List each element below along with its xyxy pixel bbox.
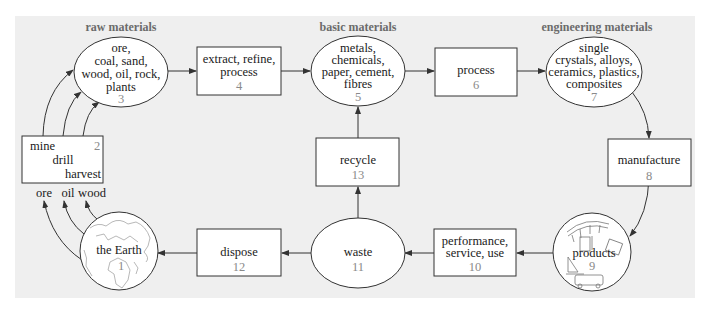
category-raw-materials: raw materials: [86, 20, 157, 34]
node-10-number: 10: [469, 260, 482, 274]
earth-output-wood: wood: [78, 186, 107, 200]
node-4-line-2: process: [220, 65, 258, 79]
node-3-line-1: ore,: [111, 41, 130, 55]
node-5-line-4: fibres: [344, 77, 373, 91]
node-extract-refine-process: extract, refine, process 4: [197, 47, 281, 95]
node-5-number: 5: [355, 90, 361, 104]
node-3-line-2: coal, sand,: [94, 54, 147, 68]
earth-output-oil: oil: [61, 186, 75, 200]
node-basic-materials: metals, chemicals, paper, cement, fibres…: [311, 36, 405, 106]
node-3-number: 3: [118, 92, 124, 106]
node-1-label: the Earth: [96, 243, 142, 257]
node-2-label-mine: mine: [30, 139, 55, 153]
category-engineering-materials: engineering materials: [542, 20, 653, 34]
node-8-number: 8: [646, 169, 652, 183]
node-6-label: process: [457, 63, 495, 77]
node-2-label-harvest: harvest: [65, 167, 102, 181]
node-recycle: recycle 13: [316, 138, 399, 186]
node-the-earth: the Earth 1: [80, 212, 158, 290]
node-3-line-3: wood, oil, rock,: [82, 67, 161, 81]
node-13-label: recycle: [340, 153, 377, 167]
node-12-number: 12: [233, 260, 246, 274]
node-manufacture: manufacture 8: [608, 139, 691, 186]
node-4-number: 4: [236, 79, 243, 93]
node-1-number: 1: [118, 259, 124, 273]
node-7-line-4: composites: [566, 77, 622, 91]
node-products: products 9: [553, 213, 631, 291]
node-performance-service-use: performance, service, use 10: [434, 229, 516, 276]
node-2-number: 2: [94, 139, 100, 153]
node-9-label: products: [572, 246, 615, 260]
node-process: process 6: [435, 48, 517, 96]
node-11-label: waste: [344, 245, 373, 259]
node-dispose: dispose 12: [197, 229, 281, 276]
node-6-number: 6: [473, 78, 479, 92]
materials-cycle-diagram: raw materials basic materials engineerin…: [0, 0, 712, 309]
node-2-label-drill: drill: [53, 153, 74, 167]
node-8-label: manufacture: [618, 153, 681, 167]
node-waste: waste 11: [311, 218, 405, 288]
node-4-line-1: extract, refine,: [203, 52, 276, 66]
node-13-number: 13: [352, 168, 365, 182]
node-raw-materials: ore, coal, sand, wood, oil, rock, plants…: [74, 37, 168, 107]
node-9-number: 9: [589, 259, 595, 273]
node-12-label: dispose: [220, 245, 258, 259]
category-basic-materials: basic materials: [320, 20, 397, 34]
node-11-number: 11: [352, 260, 364, 274]
node-engineering-materials: single crystals, alloys, ceramics, plast…: [546, 37, 642, 107]
node-mine-drill-harvest: mine drill harvest 2: [22, 136, 103, 183]
node-7-number: 7: [591, 90, 597, 104]
earth-output-ore: ore: [36, 186, 52, 200]
node-10-line-2: service, use: [446, 246, 505, 260]
